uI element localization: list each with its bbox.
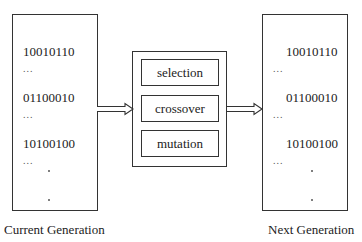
next-ellipsis-1: ... — [273, 63, 284, 74]
next-ellipsis-3: ... — [273, 155, 284, 166]
next-vertical-dot-2 — [311, 199, 313, 201]
operator-mutation: mutation — [141, 130, 219, 157]
current-generation-box: 10010110 ... 01100010 ... 10100100 ... — [12, 14, 98, 211]
operator-selection: selection — [141, 59, 219, 86]
current-chromosome-1: 10010110 — [23, 45, 75, 59]
arrow-to-next-generation-icon — [227, 102, 263, 116]
next-ellipsis-2: ... — [273, 109, 284, 120]
next-generation-label: Next Generation — [268, 222, 354, 238]
current-ellipsis-1: ... — [23, 63, 34, 74]
current-vertical-dot-2 — [48, 199, 50, 201]
next-generation-box: 10010110 ... 01100010 ... 10100100 ... — [262, 14, 348, 211]
arrow-to-operators-icon — [97, 102, 134, 116]
current-vertical-dot-1 — [48, 170, 50, 172]
next-chromosome-2: 01100010 — [286, 91, 338, 105]
current-ellipsis-3: ... — [23, 155, 34, 166]
current-chromosome-2: 01100010 — [23, 91, 75, 105]
current-ellipsis-2: ... — [23, 109, 34, 120]
operator-crossover: crossover — [141, 95, 219, 122]
current-generation-label: Current Generation — [4, 222, 105, 238]
next-chromosome-3: 10100100 — [286, 137, 338, 151]
next-chromosome-1: 10010110 — [286, 45, 338, 59]
next-vertical-dot-1 — [311, 170, 313, 172]
current-chromosome-3: 10100100 — [23, 137, 75, 151]
